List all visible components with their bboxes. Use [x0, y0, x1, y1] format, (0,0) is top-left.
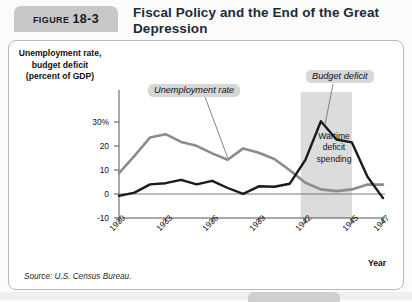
source-note: Source: U.S. Census Bureau. [24, 272, 131, 281]
wartime-band-label-line-3: spending [309, 154, 359, 165]
y-tick-label: 0 [83, 189, 109, 199]
callout-budget-deficit: Budget deficit [306, 70, 374, 83]
y-tick-label: 20 [83, 141, 109, 151]
wartime-band-label-line-1: Wartime [309, 131, 359, 142]
wartime-band-label: Wartime deficit spending [309, 131, 359, 165]
callout-unemployment-rate: Unemployment rate [148, 84, 240, 97]
wartime-band-label-line-2: deficit [309, 142, 359, 153]
y-tick-label: 10 [83, 165, 109, 175]
y-tick-label: 30% [83, 117, 109, 127]
x-axis-label: Year [368, 258, 386, 268]
y-tick-label: -10 [83, 213, 109, 223]
page-bottom-strip [0, 292, 412, 300]
page-corner-tab [248, 292, 340, 302]
unemployment-leader-line [205, 97, 228, 158]
